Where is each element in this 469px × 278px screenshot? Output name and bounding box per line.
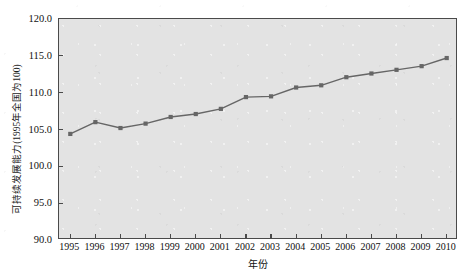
x-axis-tick-label: 2010 (436, 241, 456, 252)
data-point-marker (143, 122, 147, 126)
y-axis-tick-label: 115.0 (6, 49, 52, 60)
data-point-marker (369, 71, 373, 75)
y-axis-tick-label: 110.0 (6, 86, 52, 97)
x-axis-tick-mark (396, 234, 397, 238)
y-axis-tick-label: 95.0 (6, 197, 52, 208)
y-axis-tick-label: 105.0 (6, 123, 52, 134)
x-axis-tick-mark (120, 234, 121, 238)
data-point-marker (394, 68, 398, 72)
plot-area (58, 18, 457, 239)
x-axis-tick-label: 2006 (335, 241, 355, 252)
x-axis-tick-label: 2001 (210, 241, 230, 252)
y-axis-tick-label: 120.0 (6, 13, 52, 24)
data-point-marker (68, 132, 72, 136)
x-axis-tick-mark (296, 234, 297, 238)
x-axis-tick-label: 2005 (310, 241, 330, 252)
x-axis-tick-label: 2004 (285, 241, 305, 252)
x-axis-tick-mark (170, 234, 171, 238)
data-point-marker (445, 56, 449, 60)
line-series-svg (58, 18, 459, 241)
y-axis-tick-labels: 120.0115.0110.0105.0100.095.090.0 (6, 0, 52, 278)
x-axis-tick-label: 2009 (411, 241, 431, 252)
x-axis-tick-label: 1995 (59, 241, 79, 252)
y-axis-tick-mark (59, 129, 63, 130)
data-point-marker (294, 85, 298, 89)
data-point-marker (319, 83, 323, 87)
x-axis-tick-label: 2007 (360, 241, 380, 252)
y-axis-tick-label: 100.0 (6, 160, 52, 171)
y-axis-tick-mark (59, 203, 63, 204)
x-axis-tick-mark (270, 234, 271, 238)
chart-figure: 可持续发展能力(1995年全国为100) 120.0115.0110.0105.… (0, 0, 469, 278)
series-line (70, 58, 446, 134)
data-point-marker (420, 64, 424, 68)
x-axis-tick-mark (321, 234, 322, 238)
y-axis-tick-mark (59, 55, 63, 56)
series-markers (68, 56, 449, 136)
x-axis-tick-mark (70, 234, 71, 238)
x-axis-tick-mark (446, 234, 447, 238)
x-axis-tick-label: 2008 (386, 241, 406, 252)
x-axis-tick-mark (195, 234, 196, 238)
x-axis-tick-labels: 1995199619971998199920002001200220032004… (0, 241, 469, 255)
x-axis-tick-mark (145, 234, 146, 238)
x-axis-tick-label: 1997 (109, 241, 129, 252)
x-axis-tick-label: 2002 (235, 241, 255, 252)
data-point-marker (244, 95, 248, 99)
x-axis-tick-mark (95, 234, 96, 238)
data-point-marker (269, 94, 273, 98)
y-axis-tick-mark (59, 92, 63, 93)
data-point-marker (93, 120, 97, 124)
data-point-marker (169, 115, 173, 119)
x-axis-tick-label: 2003 (260, 241, 280, 252)
x-axis-label: 年份 (58, 256, 457, 271)
data-point-marker (118, 126, 122, 130)
x-axis-tick-mark (220, 234, 221, 238)
x-axis-tick-mark (421, 234, 422, 238)
x-axis-tick-label: 2000 (185, 241, 205, 252)
x-axis-tick-mark (346, 234, 347, 238)
data-point-marker (344, 75, 348, 79)
x-axis-tick-mark (245, 234, 246, 238)
x-axis-tick-mark (371, 234, 372, 238)
x-axis-tick-label: 1999 (160, 241, 180, 252)
data-point-marker (219, 107, 223, 111)
y-axis-tick-mark (59, 166, 63, 167)
x-axis-tick-label: 1996 (84, 241, 104, 252)
data-point-marker (194, 112, 198, 116)
x-axis-tick-label: 1998 (135, 241, 155, 252)
